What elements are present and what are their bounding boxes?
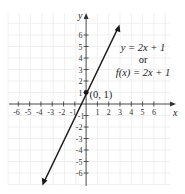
x-tick-label: -6 [13, 108, 20, 117]
equation-line1: y = 2x + 1 [120, 42, 166, 53]
x-tick-label: 1 [95, 108, 99, 117]
x-tick-label: -4 [36, 108, 43, 117]
x-tick-label: -5 [25, 108, 32, 117]
y-tick-label: 4 [79, 54, 83, 63]
y-tick-label: 6 [79, 31, 83, 40]
x-tick-label: -2 [59, 108, 66, 117]
y-tick-label: 1 [79, 89, 83, 98]
y-tick-label: -5 [76, 158, 83, 167]
graph: -6 -5 -4 -3 -2 -1 1 2 3 4 5 6 6 5 4 3 2 … [0, 0, 185, 194]
x-tick-label: -3 [47, 108, 54, 117]
y-tick-label: -3 [76, 135, 83, 144]
y-intercept-point [84, 90, 89, 95]
y-tick-labels: 6 5 4 3 2 1 -1 -2 -3 -4 -5 -6 [76, 31, 85, 178]
x-axis-label: x [172, 107, 178, 118]
y-tick-label: 2 [79, 77, 83, 86]
y-axis-label: y [77, 10, 83, 21]
y-tick-label: -6 [76, 169, 83, 178]
x-axis-arrow-icon [170, 102, 176, 107]
y-tick-label: -1 [78, 112, 85, 121]
y-tick-label: 5 [79, 43, 83, 52]
y-tick-label: -2 [76, 123, 83, 132]
equation-or: or [139, 54, 148, 65]
x-tick-label: 6 [152, 108, 156, 117]
x-tick-label: 3 [118, 108, 122, 117]
y-tick-label: 3 [79, 66, 83, 75]
x-tick-label: 4 [129, 108, 133, 117]
equation-label: y = 2x + 1 or f(x) = 2x + 1 [116, 42, 170, 79]
x-tick-label: 2 [107, 108, 111, 117]
line-arrow-top-icon [115, 25, 121, 33]
x-tick-label: 5 [141, 108, 145, 117]
point-label: (0, 1) [90, 89, 113, 101]
y-axis-arrow-icon [84, 13, 89, 19]
equation-line2: f(x) = 2x + 1 [116, 67, 170, 79]
y-tick-label: -4 [76, 146, 83, 155]
